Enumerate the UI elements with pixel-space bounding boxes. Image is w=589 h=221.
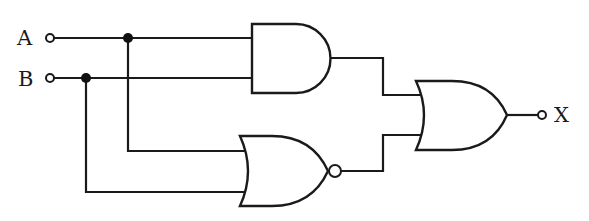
output-x-terminal <box>538 111 546 119</box>
or-gate <box>416 81 507 150</box>
nor-gate <box>240 136 341 206</box>
wire-b-to-nor <box>86 78 250 192</box>
logic-circuit-diagram: A B X <box>0 0 589 221</box>
junction-b <box>81 73 91 83</box>
wire-a-to-nor <box>128 38 250 151</box>
wire-nor-to-or <box>341 135 428 171</box>
and-gate <box>252 24 331 93</box>
output-x-label: X <box>554 103 569 127</box>
input-a-label: A <box>16 26 33 50</box>
input-b-terminal <box>46 74 54 82</box>
input-a-terminal <box>46 34 54 42</box>
input-b-label: B <box>18 67 33 91</box>
nor-inversion-bubble <box>329 165 341 177</box>
junction-a <box>123 33 133 43</box>
wire-and-to-or <box>330 58 428 95</box>
